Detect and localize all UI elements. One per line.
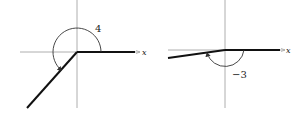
terminal-ray — [27, 52, 77, 108]
figure-angle-4: 4 x — [20, 0, 147, 108]
angle-diagrams: 4 x −3 x — [0, 0, 294, 118]
angle-label: 4 — [95, 23, 101, 34]
figure-angle-neg3: −3 x — [168, 0, 291, 108]
x-axis-label: x — [286, 46, 291, 55]
x-axis-label: x — [142, 48, 147, 57]
terminal-ray — [168, 50, 225, 58]
angle-label: −3 — [232, 69, 247, 80]
